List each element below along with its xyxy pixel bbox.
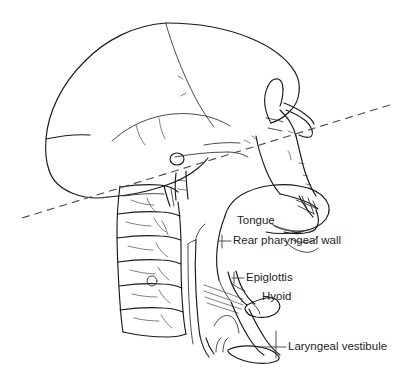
reference-plane-line xyxy=(22,104,393,218)
label-tongue: Tongue xyxy=(237,214,275,226)
rear-pharyngeal-wall xyxy=(195,224,205,336)
label-rear-pharyngeal-wall: Rear pharyngeal wall xyxy=(233,234,341,246)
temporal-line xyxy=(112,114,230,145)
coronal-suture xyxy=(166,24,214,127)
larynx xyxy=(200,302,280,363)
label-laryngeal-vestibule: Laryngeal vestibule xyxy=(288,340,387,352)
hard-palate-and-teeth xyxy=(280,194,318,217)
skull-base xyxy=(108,136,257,197)
cervical-vertebrae xyxy=(117,185,186,337)
anatomy-drawing: Tongue Rear pharyngeal wall Epiglottis H… xyxy=(0,0,411,376)
label-hyoid: Hyoid xyxy=(262,290,291,302)
anatomy-figure: Tongue Rear pharyngeal wall Epiglottis H… xyxy=(0,0,411,376)
maxilla xyxy=(256,136,316,196)
mastoid-process xyxy=(175,171,188,200)
facial-skeleton xyxy=(265,79,314,138)
label-epiglottis: Epiglottis xyxy=(246,271,293,283)
external-auditory-meatus-icon xyxy=(170,153,184,165)
tracheal-rings xyxy=(214,315,239,352)
